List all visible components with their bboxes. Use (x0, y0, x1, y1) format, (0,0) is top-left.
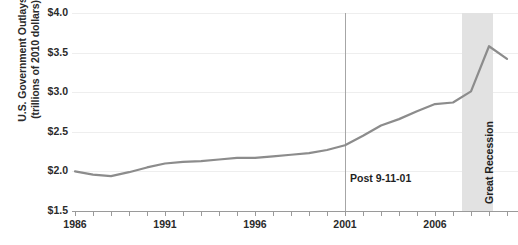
line-chart: U.S. Government Outlays (trillions of 20… (0, 0, 518, 245)
x-tick-label: 1986 (53, 218, 97, 230)
x-tick-mark (165, 211, 166, 216)
y-tick-label: $3.5 (24, 46, 68, 58)
x-tick-label: 1996 (233, 218, 277, 230)
x-tick-mark (201, 211, 202, 216)
x-tick-label: 1991 (143, 218, 187, 230)
x-tick-mark (381, 211, 382, 216)
y-tick-label: $3.0 (24, 85, 68, 97)
x-tick-mark (183, 211, 184, 216)
x-axis-line (72, 211, 518, 212)
x-tick-mark (219, 211, 220, 216)
x-tick-mark (147, 211, 148, 216)
x-tick-mark (453, 211, 454, 216)
x-tick-mark (507, 211, 508, 216)
x-tick-mark (291, 211, 292, 216)
y-axis-tick-labels: $1.5$2.0$2.5$3.0$3.5$4.0 (24, 0, 68, 245)
y-tick-label: $4.0 (24, 6, 68, 18)
x-tick-mark (255, 211, 256, 216)
x-tick-label: 2001 (323, 218, 367, 230)
y-tick-label: $1.5 (24, 204, 68, 216)
x-tick-mark (435, 211, 436, 216)
y-tick-label: $2.0 (24, 164, 68, 176)
x-tick-mark (309, 211, 310, 216)
y-tick-label: $2.5 (24, 125, 68, 137)
x-tick-mark (75, 211, 76, 216)
x-tick-mark (345, 211, 346, 216)
plot-area: Great Recession Post 9-11-01 (72, 13, 518, 211)
x-tick-mark (93, 211, 94, 216)
data-series-line (72, 13, 518, 211)
x-tick-mark (363, 211, 364, 216)
x-tick-mark (237, 211, 238, 216)
x-tick-mark (399, 211, 400, 216)
x-tick-mark (327, 211, 328, 216)
x-tick-mark (417, 211, 418, 216)
x-tick-mark (111, 211, 112, 216)
x-tick-mark (489, 211, 490, 216)
x-tick-mark (471, 211, 472, 216)
x-tick-label: 2006 (413, 218, 457, 230)
x-tick-mark (129, 211, 130, 216)
x-tick-mark (273, 211, 274, 216)
